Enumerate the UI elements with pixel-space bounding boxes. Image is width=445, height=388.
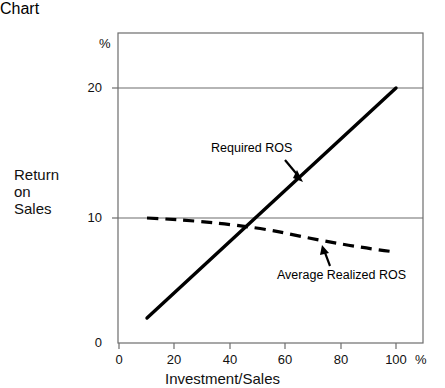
plot-area bbox=[0, 18, 445, 388]
annotation-label-average-realized-ros: Average Realized ROS bbox=[277, 268, 406, 282]
chart-figure: Return on Sales % 20 10 0 0 20 40 60 80 … bbox=[0, 18, 445, 388]
x-axis-title: Investment/Sales bbox=[0, 370, 445, 387]
plot-frame bbox=[118, 33, 423, 343]
annotation-label-required-ros: Required ROS bbox=[211, 141, 292, 155]
